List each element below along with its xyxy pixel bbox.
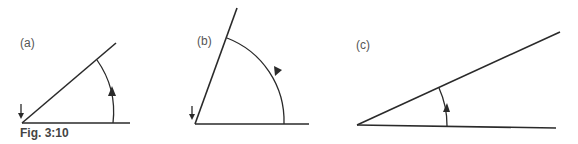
panel-a-vertex-arrowhead-icon xyxy=(18,113,24,119)
panel-b-angle xyxy=(189,8,309,124)
panel-b-arc xyxy=(227,38,284,124)
panel-c-baseline xyxy=(357,125,556,128)
panel-b-label: (b) xyxy=(197,34,212,48)
panel-b-arc-arrowhead-icon xyxy=(274,66,282,76)
figure-caption: Fig. 3:10 xyxy=(20,126,69,140)
panel-a-ray xyxy=(22,43,116,123)
panel-b-vertex-arrowhead-icon xyxy=(189,114,195,120)
panel-c-angle xyxy=(357,32,560,128)
panel-b-ray xyxy=(195,8,237,124)
panel-c-ray xyxy=(357,32,560,125)
panel-a-angle xyxy=(18,43,130,123)
panel-a-arc-arrowhead-icon xyxy=(108,86,116,96)
panel-c-label: (c) xyxy=(356,38,370,52)
angle-diagrams xyxy=(0,0,578,144)
panel-a-label: (a) xyxy=(20,36,35,50)
